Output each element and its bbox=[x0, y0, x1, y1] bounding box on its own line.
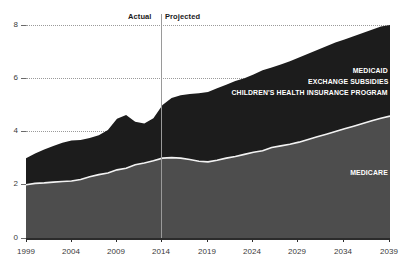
xtick-mark-2004 bbox=[71, 238, 72, 242]
actual-projected-divider bbox=[161, 25, 162, 238]
xtick-label-2039: 2039 bbox=[369, 248, 404, 256]
ytick-label-6: 6 bbox=[2, 74, 18, 82]
series-label-chip: CHILDREN'S HEALTH INSURANCE PROGRAM bbox=[232, 88, 388, 98]
xtick-label-2014: 2014 bbox=[141, 248, 181, 256]
actual-label: Actual bbox=[128, 13, 152, 21]
xtick-label-1999: 1999 bbox=[6, 248, 46, 256]
xtick-mark-2039 bbox=[389, 238, 390, 242]
xtick-label-2034: 2034 bbox=[323, 248, 363, 256]
xtick-mark-2024 bbox=[252, 238, 253, 242]
xtick-label-2024: 2024 bbox=[232, 248, 272, 256]
series-label-medicare: MEDICARE bbox=[350, 168, 388, 178]
series-label-medicaid: MEDICAID bbox=[353, 66, 388, 76]
series-label-exchange-subsidies: EXCHANGE SUBSIDIES bbox=[308, 77, 388, 87]
x-axis-line bbox=[26, 238, 390, 240]
xtick-label-2019: 2019 bbox=[187, 248, 227, 256]
plot-area bbox=[26, 25, 390, 238]
ytick-label-4: 4 bbox=[2, 127, 18, 135]
xtick-mark-2029 bbox=[297, 238, 298, 242]
xtick-label-2004: 2004 bbox=[51, 248, 91, 256]
ytick-label-8: 8 bbox=[2, 21, 18, 29]
xtick-label-2029: 2029 bbox=[277, 248, 317, 256]
ytick-label-2: 2 bbox=[2, 180, 18, 188]
xtick-mark-2014 bbox=[161, 238, 162, 242]
ytick-label-0: 0 bbox=[2, 234, 18, 242]
xtick-mark-2019 bbox=[207, 238, 208, 242]
xtick-label-2009: 2009 bbox=[96, 248, 136, 256]
xtick-mark-2009 bbox=[116, 238, 117, 242]
xtick-mark-1999 bbox=[26, 238, 27, 242]
projected-label: Projected bbox=[165, 13, 200, 21]
actual-projected-divider-top bbox=[161, 14, 162, 25]
xtick-mark-2034 bbox=[343, 238, 344, 242]
stacked-area-chart: 8 6 4 2 0 Actual Projected MEDICAID EXCH… bbox=[0, 0, 404, 273]
